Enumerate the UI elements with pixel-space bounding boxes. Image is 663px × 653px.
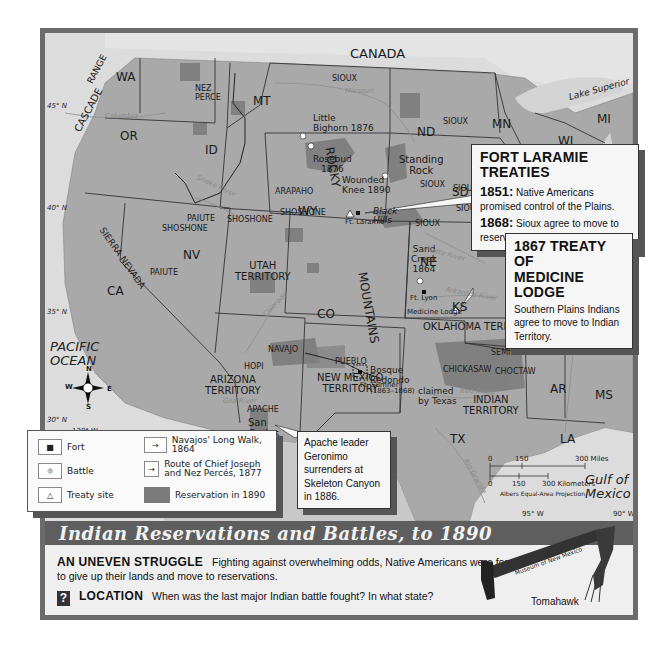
river-label-red: Red River — [460, 388, 494, 395]
tribe-label-shoshone-nv: SHOSHONE — [162, 225, 208, 233]
compass-e: E — [107, 386, 112, 393]
state-label-or: OR — [120, 130, 138, 142]
legend-item-treaty-site: △ Treaty site — [38, 487, 114, 503]
state-label-wa: WA — [116, 71, 135, 83]
callout-medicine-lodge-title: 1867 TREATY OFMEDICINE LODGE — [514, 239, 624, 301]
river-label-gila: Gila River — [223, 398, 257, 405]
tribe-label-navajo: NAVAJO — [268, 346, 298, 354]
fort-label-laramie: Ft. Laramie — [345, 219, 385, 226]
map-title: Indian Reservations and Battles, to 1890 — [59, 523, 492, 544]
gridline-label-35n: 35° N — [47, 309, 67, 316]
state-label-ms: MS — [595, 389, 613, 401]
caption-location: ? LOCATION When was the last major India… — [57, 589, 433, 606]
legend-item-reservation: Reservation in 1890 — [144, 487, 265, 503]
gridline-label-45n: 45° N — [47, 103, 67, 110]
tribe-label-sioux-standing-rock: SIOUX — [420, 181, 445, 189]
tribe-label-sioux-pine-ridge: SIOUX — [415, 220, 440, 228]
gridline-label-90w: 90° W — [613, 511, 633, 518]
caption-uneven-struggle: AN UNEVEN STRUGGLE Fighting against over… — [57, 555, 525, 569]
state-label-ca: CA — [107, 285, 124, 297]
scale-miles-0: 0 — [488, 456, 492, 463]
state-label-id: ID — [205, 144, 218, 156]
compass-w: W — [65, 384, 73, 391]
caption-question: When was the last major Indian battle fo… — [152, 590, 433, 602]
callout-geronimo: Apache leader Geronimo surrenders at Ske… — [297, 431, 391, 509]
tribe-label-pueblo: PUEBLO — [335, 358, 367, 366]
reservation-swatch-icon — [144, 487, 170, 503]
territory-label-indian: INDIANTERRITORY — [463, 395, 519, 416]
state-label-ar: AR — [550, 383, 567, 395]
tribe-label-paiute-nv: PAIUTE — [150, 269, 178, 277]
fort-label-sumner: Ft. Sumner — [360, 382, 399, 389]
state-label-nv: NV — [183, 249, 200, 261]
legend-label-chief-joseph-route: Route of Chief Joseph and Nez Percés, 18… — [164, 460, 272, 479]
legend-label-reservation: Reservation in 1890 — [175, 490, 265, 500]
tribe-label-chickasaw: CHICKASAW — [443, 366, 491, 374]
tribe-label-arapaho: ARAPAHO — [275, 188, 313, 196]
tribe-label-choctaw: CHOCTAW — [495, 368, 536, 376]
map-legend: ■ Fort ☼ Battle △ Treaty site → Navajos'… — [27, 430, 277, 512]
tribe-label-nez-perce: NEZPERCE — [195, 85, 221, 103]
caption-heading-location: LOCATION — [79, 589, 143, 603]
state-label-mi: MI — [597, 113, 611, 125]
territory-label-oklahoma: OKLAHOMA TERR. — [423, 322, 513, 333]
state-label-co: CO — [317, 308, 335, 320]
state-label-mt: MT — [253, 95, 271, 107]
legend-item-fort: ■ Fort — [38, 439, 85, 455]
scale-km-300: 300 Kilometers — [542, 481, 595, 488]
battle-label-rosebud: Rosebud1876 — [313, 155, 352, 175]
scale-miles-300: 300 Miles — [575, 456, 608, 463]
state-label-la: LA — [560, 433, 575, 445]
scale-miles-150: 150 — [515, 456, 528, 463]
callout-geronimo-text: Apache leader Geronimo surrenders at Ske… — [304, 436, 384, 504]
legend-item-long-walk: → Navajos' Long Walk, 1864 — [144, 436, 272, 455]
compass-n: N — [86, 366, 92, 373]
battle-label-wounded-knee: WoundedKnee 1890 — [342, 176, 390, 196]
artifact-label: Tomahawk — [531, 597, 579, 607]
arrow-icon: → — [144, 461, 159, 477]
legend-label-fort: Fort — [67, 442, 85, 452]
legend-item-chief-joseph-route: → Route of Chief Joseph and Nez Percés, … — [144, 460, 272, 479]
label-claimed-by-texas: claimedby Texas — [418, 387, 457, 407]
territory-label-utah: UTAHTERRITORY — [235, 261, 291, 282]
callout-medicine-lodge-text: Southern Plains Indians agree to move to… — [514, 303, 624, 344]
legend-label-treaty-site: Treaty site — [67, 490, 114, 500]
fort-icon: ■ — [38, 439, 62, 455]
gridline-label-30n: 30° N — [47, 417, 67, 424]
water-label-pacific: PACIFICOCEAN — [50, 340, 99, 367]
tribe-label-shoshone-id: SHOSHONE — [227, 216, 273, 224]
place-label-standing-rock: StandingRock — [399, 155, 444, 176]
treaty-label-medicine-lodge: Medicine Lodge — [407, 309, 462, 316]
state-label-mn: MN — [492, 118, 511, 130]
country-label-canada: CANADA — [350, 47, 405, 60]
arrow-icon: → — [144, 437, 167, 453]
tribe-label-apache: APACHE — [247, 406, 279, 414]
callout-medicine-lodge: 1867 TREATY OFMEDICINE LODGE Southern Pl… — [505, 233, 633, 349]
river-label-columbia: Columbia — [105, 113, 138, 120]
river-label-missouri: Missouri — [345, 88, 374, 95]
legend-item-battle: ☼ Battle — [38, 463, 94, 479]
scale-km-150: 150 — [512, 481, 525, 488]
tribe-label-paiute-id: PAIUTE — [187, 215, 215, 223]
battle-label-little-bighorn: LittleBighorn 1876 — [313, 114, 374, 134]
scale-km-0: 0 — [488, 481, 492, 488]
gridline-label-40n: 40° N — [47, 205, 67, 212]
gridline-label-95w: 95° W — [522, 511, 544, 518]
caption-panel: AN UNEVEN STRUGGLE Fighting against over… — [45, 545, 633, 615]
tribe-label-shoshone-wy: SHOSHONE — [280, 209, 326, 217]
callout-fort-laramie-title: FORT LARAMIE TREATIES — [480, 150, 630, 181]
caption-heading-uneven-struggle: AN UNEVEN STRUGGLE — [57, 555, 203, 569]
treaty-site-icon: △ — [38, 487, 62, 503]
tribe-label-seminole: SEMINOLE — [491, 349, 532, 357]
legend-label-long-walk: Navajos' Long Walk, 1864 — [172, 436, 272, 455]
battle-icon: ☼ — [38, 463, 62, 479]
scale-projection: Albers Equal-Area Projection — [500, 491, 585, 497]
tribe-label-sioux-mt: SIOUX — [332, 75, 357, 83]
caption-text-1b: to give up their lands and move to reser… — [57, 570, 278, 582]
territory-label-arizona: ARIZONATERRITORY — [205, 375, 261, 396]
state-label-nd: ND — [417, 126, 435, 138]
tribe-label-hopi: HOPI — [244, 363, 264, 371]
fort-label-lyon: Ft. Lyon — [410, 295, 437, 302]
question-icon: ? — [57, 591, 70, 606]
tribe-label-sioux-nd: SIOUX — [443, 118, 468, 126]
